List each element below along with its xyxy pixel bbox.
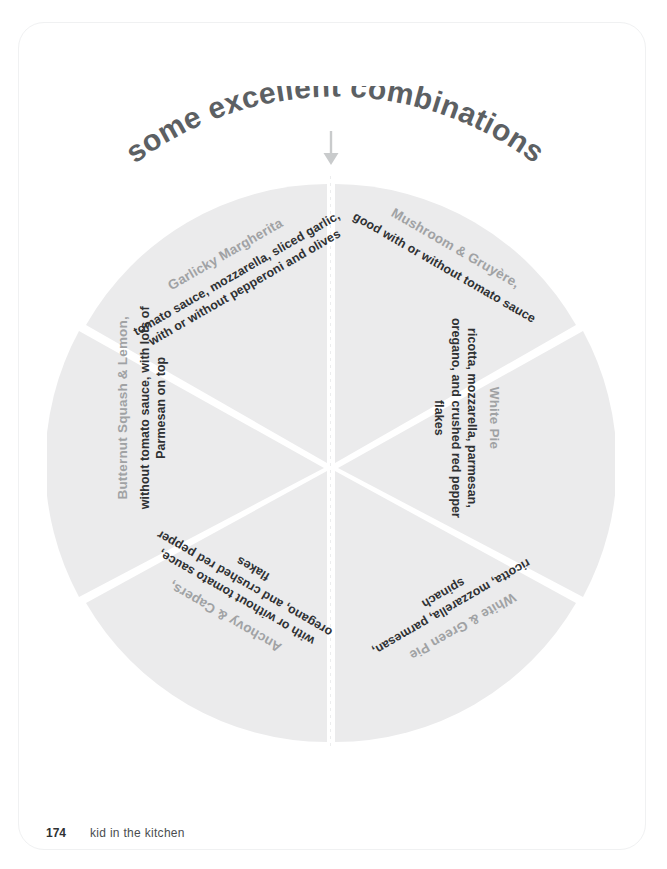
slice-title: White Pie (485, 303, 503, 533)
slice-description: without tomato sauce, with lots of Parme… (137, 293, 170, 523)
arrow-down-glyph (313, 128, 349, 168)
slice-label-white-pie: White Pie ricotta, mozzarella, parmesan,… (431, 303, 503, 533)
book-page: some excellent combinations (0, 0, 667, 869)
page-footer: 174 kid in the kitchen (46, 826, 185, 840)
book-title: kid in the kitchen (90, 826, 185, 840)
page-number: 174 (46, 826, 66, 840)
slice-description: ricotta, mozzarella, parmesan, oregano, … (431, 303, 480, 533)
arrow-down-icon (313, 128, 349, 168)
slice-title: Butternut Squash & Lemon, (114, 293, 132, 523)
slice-label-butternut-squash-lemon: Butternut Squash & Lemon, without tomato… (114, 293, 170, 523)
